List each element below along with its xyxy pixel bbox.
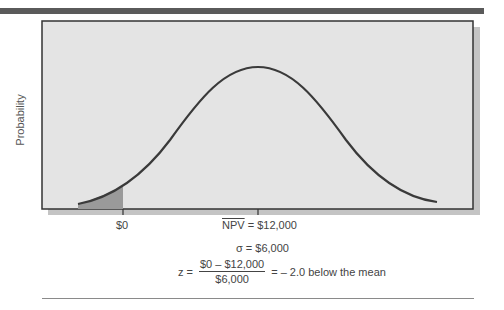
- z-result: = – 2.0 below the mean: [271, 266, 386, 278]
- mean-npv-label: NPV = $12,000: [222, 219, 297, 231]
- bottom-rule: [42, 298, 474, 299]
- z-denominator: $6,000: [215, 272, 249, 285]
- sigma-label: σ = $6,000: [236, 242, 289, 254]
- npv-symbol: NPV: [222, 219, 245, 231]
- z-numerator: $0 – $12,000: [199, 258, 265, 272]
- npv-value: = $12,000: [245, 219, 297, 231]
- plot-area: [42, 21, 473, 209]
- z-prefix: z =: [178, 266, 193, 278]
- tick-label-zero: $0: [116, 219, 128, 231]
- z-fraction: $0 – $12,000 $6,000: [199, 258, 265, 285]
- z-score-formula: z = $0 – $12,000 $6,000 = – 2.0 below th…: [178, 258, 386, 285]
